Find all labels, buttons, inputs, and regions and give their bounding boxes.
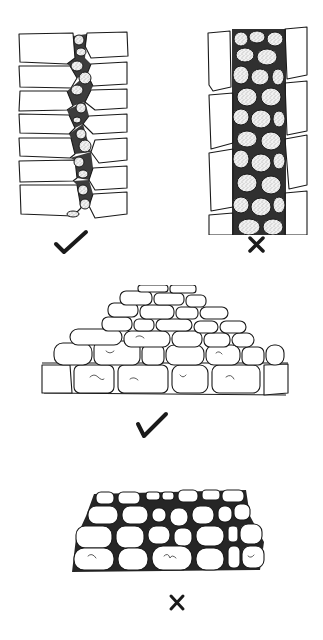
cross-icon: [166, 593, 188, 613]
good-section-drawing: [15, 28, 130, 223]
check-icon: [132, 410, 172, 440]
verdict-incorrect-mark-2: incorrect: [166, 593, 188, 613]
verdict-incorrect-mark-1: incorrect: [246, 235, 268, 255]
check-icon: [52, 226, 92, 256]
bad-section-drawing: [205, 25, 310, 235]
wall-section-bad: Two faces of stones with a wide core fil…: [205, 25, 310, 235]
wall-elevation-bad: Wall with running vertical joints and sm…: [72, 486, 267, 572]
verdict-correct-mark-2: correct: [132, 410, 172, 440]
good-elevation-drawing: [40, 285, 290, 400]
bad-elevation-drawing: [72, 486, 267, 572]
verdict-correct-mark-1: correct: [52, 226, 92, 256]
wall-elevation-good: Battered wall with large stones at base,…: [40, 285, 290, 400]
cross-icon: [246, 235, 268, 255]
wall-section-good: Two faces of large through-stones with a…: [15, 28, 130, 223]
